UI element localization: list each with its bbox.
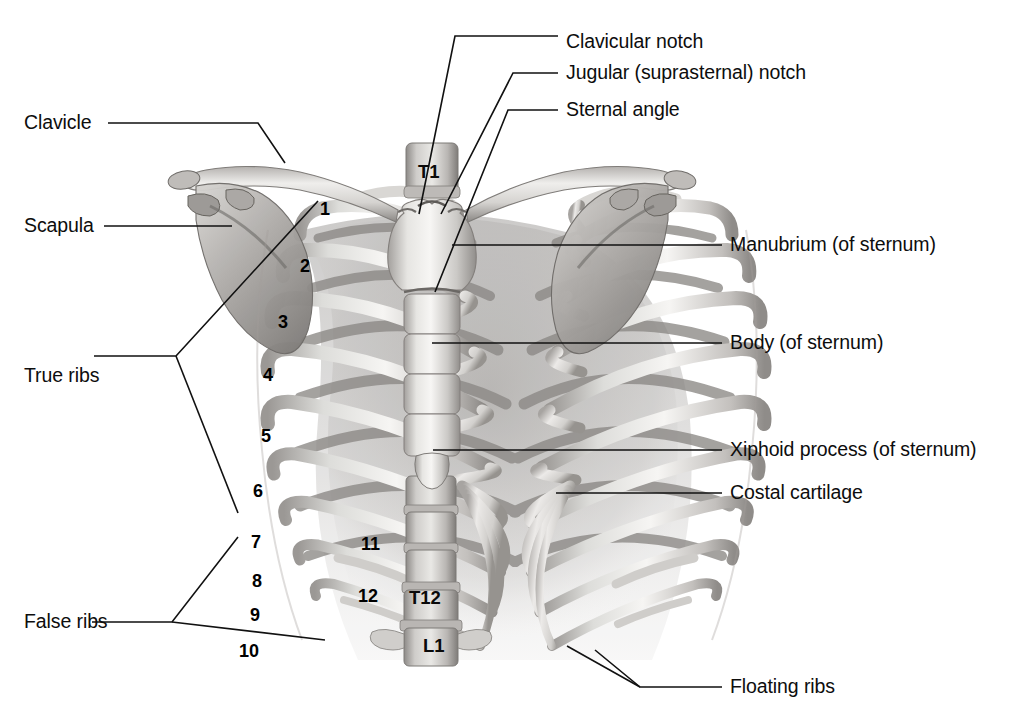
leader-true-ribs-b [176, 356, 238, 513]
rib-number-1: 1 [320, 200, 330, 218]
rib-number-7: 7 [251, 533, 261, 551]
label-xiphoid-process: Xiphoid process (of sternum) [730, 440, 976, 460]
rib-number-4: 4 [263, 366, 273, 384]
rib-number-10: 10 [239, 642, 259, 660]
label-scapula: Scapula [24, 216, 94, 236]
leader-false-ribs-a [92, 537, 238, 622]
rib-number-11: 11 [361, 535, 380, 553]
rib-number-8: 8 [252, 572, 262, 590]
rib-number-12: 12 [358, 587, 378, 605]
rib-number-5: 5 [261, 427, 271, 445]
rib-number-6: 6 [253, 482, 263, 500]
label-clavicular-notch: Clavicular notch [566, 32, 703, 52]
leader-false-ribs-b [172, 622, 325, 640]
label-false-ribs: False ribs [24, 612, 108, 632]
label-costal-cartilage: Costal cartilage [730, 483, 863, 503]
label-true-ribs: True ribs [24, 366, 99, 386]
vertebra-label-t1: T1 [418, 163, 440, 182]
leader-clavicle [108, 123, 285, 163]
rib-number-2: 2 [300, 257, 310, 275]
label-clavicle: Clavicle [24, 113, 91, 133]
rib-number-9: 9 [250, 606, 260, 624]
label-floating-ribs: Floating ribs [730, 677, 835, 697]
rib-number-3: 3 [278, 313, 288, 331]
label-jugular-notch: Jugular (suprasternal) notch [566, 63, 806, 83]
vertebra-label-l1: L1 [423, 637, 445, 656]
ribcage-illustration [0, 0, 1017, 712]
label-body-of-sternum: Body (of sternum) [730, 333, 883, 353]
anatomy-figure: Clavicular notch Jugular (suprasternal) … [0, 0, 1017, 712]
label-manubrium: Manubrium (of sternum) [730, 235, 936, 255]
label-sternal-angle: Sternal angle [566, 100, 680, 120]
vertebra-label-t12: T12 [409, 589, 441, 608]
